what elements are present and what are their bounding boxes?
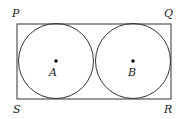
center-point-a bbox=[54, 59, 58, 63]
center-point-b bbox=[131, 59, 135, 63]
vertex-label-p: P bbox=[11, 7, 20, 20]
center-label-b: B bbox=[127, 66, 136, 79]
rectangle-pqrs bbox=[17, 24, 171, 99]
center-label-a: A bbox=[48, 66, 57, 79]
vertex-label-q: Q bbox=[164, 7, 173, 20]
vertex-label-s: S bbox=[13, 103, 21, 116]
vertex-label-r: R bbox=[163, 103, 172, 116]
geometry-diagram: P Q R S A B bbox=[0, 0, 180, 119]
